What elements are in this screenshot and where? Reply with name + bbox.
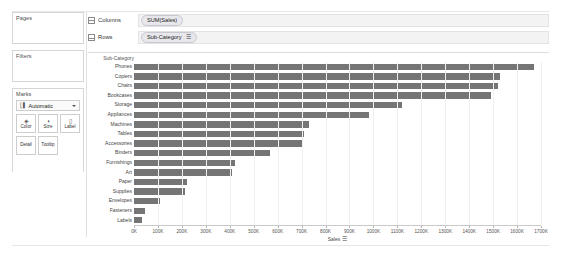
row-label[interactable]: Art [88,168,134,178]
gridline [541,62,542,225]
axis-tick-label: 800K [320,229,331,234]
row-label[interactable]: Phones [88,62,134,72]
filters-card[interactable]: Filters [12,50,84,82]
bottom-divider [12,245,549,246]
bar-row [134,168,541,178]
marks-detail-button[interactable]: Detail [16,136,36,155]
axis-tick-label: 200K [176,229,187,234]
rows-shelf-track[interactable]: Sub-Category ☰ [138,31,549,44]
axis-tick-label: 0K [131,229,137,234]
columns-shelf[interactable]: Columns SUM(Sales) [88,13,549,27]
bar[interactable] [134,64,534,70]
bar[interactable] [134,102,402,108]
left-panel: Pages Filters Marks ⎣▌ Automatic ◈ Color… [12,12,84,237]
row-label[interactable]: Fasteners [88,206,134,216]
panel-divider [86,12,87,237]
bar[interactable] [134,121,309,127]
bar[interactable] [134,208,145,214]
chevron-down-icon[interactable] [72,105,76,107]
bar[interactable] [134,188,185,194]
x-axis-title: Sales ☰ [134,236,541,242]
axis-tick-label: 1600K [510,229,524,234]
marks-color-button[interactable]: ◈ Color [16,114,36,133]
bar[interactable] [134,83,498,89]
marks-button-row-2: Detail Tooltip [13,133,83,155]
mark-type-value: Automatic [29,103,70,109]
bar-row [134,177,541,187]
columns-shelf-track[interactable]: SUM(Sales) [138,14,549,27]
axis-tick-label: 1400K [462,229,476,234]
bar-row [134,100,541,110]
bar-row [134,120,541,130]
bar-row [134,206,541,216]
pill-sub-category[interactable]: Sub-Category ☰ [141,32,197,43]
sort-descending-icon[interactable]: ☰ [342,236,347,242]
rows-shelf[interactable]: Rows Sub-Category ☰ [88,30,549,44]
axis-tick-label: 300K [200,229,211,234]
row-label[interactable]: Supplies [88,187,134,197]
axis-tick-label: 100K [152,229,163,234]
axis-tick-label: 900K [344,229,355,234]
bar-row [134,81,541,91]
mark-type-dropdown[interactable]: ⎣▌ Automatic [16,100,80,111]
shelf-area: Columns SUM(Sales) Rows Sub-Category ☰ [88,13,549,47]
row-label[interactable]: Appliances [88,110,134,120]
marks-tooltip-label: Tooltip [41,143,54,148]
bar-row [134,158,541,168]
marks-card[interactable]: Marks ⎣▌ Automatic ◈ Color ◑ Size ▯ Labe… [12,88,84,172]
color-palette-icon: ◈ [24,118,29,124]
row-label[interactable]: Tables [88,129,134,139]
sort-descending-icon[interactable]: ☰ [186,34,191,40]
marks-size-button[interactable]: ◑ Size [38,114,58,133]
rows-icon [88,34,95,41]
bar[interactable] [134,73,500,79]
row-label[interactable]: Storage [88,100,134,110]
pages-card-title: Pages [13,13,83,21]
marks-tooltip-button[interactable]: Tooltip [38,136,58,155]
axis-tick-label: 1500K [486,229,500,234]
pages-card[interactable]: Pages [12,12,84,44]
pill-sum-sales-text: SUM(Sales) [147,17,177,23]
row-label[interactable]: Bookcases [88,91,134,101]
axis-tick-label: 1000K [367,229,381,234]
bar[interactable] [134,112,369,118]
row-label[interactable]: Machines [88,120,134,130]
row-label[interactable]: Furnishings [88,158,134,168]
row-label[interactable]: Paper [88,177,134,187]
row-labels-column: PhonesCopiersChairsBookcasesStorageAppli… [88,62,134,225]
bar[interactable] [134,217,142,223]
pill-sum-sales[interactable]: SUM(Sales) [141,15,183,26]
columns-shelf-label: Columns [98,17,138,23]
bar[interactable] [134,140,302,146]
marks-label-button[interactable]: ▯ Label [60,114,80,133]
row-label[interactable]: Binders [88,148,134,158]
marks-card-title: Marks [13,89,83,97]
bar-row [134,196,541,206]
top-divider [12,11,549,12]
pill-sub-category-text: Sub-Category [147,34,182,40]
bar-row [134,129,541,139]
row-label[interactable]: Chairs [88,81,134,91]
tableau-worksheet: Pages Filters Marks ⎣▌ Automatic ◈ Color… [0,0,561,260]
axis-tick-label: 1700K [534,229,548,234]
row-label[interactable]: Envelopes [88,196,134,206]
bar[interactable] [134,160,235,166]
label-icon: ▯ [69,118,72,124]
row-label[interactable]: Accessories [88,139,134,149]
marks-label-label: Label [64,125,75,130]
axis-tick-label: 600K [272,229,283,234]
bar-row [134,110,541,120]
bar-row [134,216,541,226]
marks-detail-label: Detail [20,143,32,148]
bar[interactable] [134,198,160,204]
filters-card-title: Filters [13,51,83,59]
row-label[interactable]: Copiers [88,72,134,82]
row-header-title: Sub-Category [88,55,134,61]
bar[interactable] [134,150,270,156]
bar[interactable] [134,179,187,185]
bar[interactable] [134,131,304,137]
row-label[interactable]: Labels [88,216,134,226]
visualization-pane: Sub-Category PhonesCopiersChairsBookcase… [88,52,549,237]
bar[interactable] [134,92,491,98]
bar[interactable] [134,169,232,175]
